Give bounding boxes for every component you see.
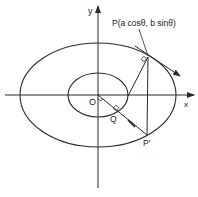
- point-p-label: P(a cosθ, b sinθ): [112, 18, 176, 28]
- point-q-label: Q: [110, 114, 117, 124]
- ellipse-diagram: y x O P(a cosθ, b sinθ) Q P': [0, 0, 198, 197]
- direction-arrow-icon: [128, 120, 135, 127]
- y-axis-label: y: [88, 6, 93, 16]
- origin-label: O: [89, 97, 96, 107]
- tangent-line: [135, 46, 180, 76]
- p-to-p-prime-line: [147, 57, 148, 135]
- x-axis-label: x: [184, 100, 188, 109]
- q-to-p-line: [128, 57, 148, 96]
- point-p-prime-label: P': [143, 138, 151, 148]
- o-to-p-prime-line: [98, 95, 147, 135]
